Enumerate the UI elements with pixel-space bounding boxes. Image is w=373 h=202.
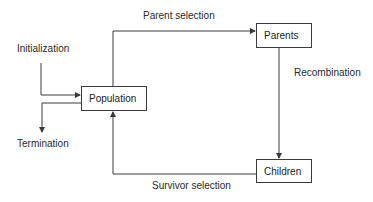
initialization-label: Initialization: [17, 43, 69, 55]
evolutionary-cycle-diagram: Population Parents Children Initializati…: [0, 0, 373, 202]
children-label: Children: [264, 166, 301, 177]
parents-node: Parents: [256, 23, 312, 48]
parent-selection-arrow: [113, 31, 255, 86]
population-node: Population: [81, 86, 147, 111]
population-label: Population: [89, 93, 136, 104]
termination-label: Termination: [17, 138, 69, 150]
parents-label: Parents: [264, 30, 298, 41]
children-node: Children: [256, 159, 312, 183]
parent-selection-label: Parent selection: [143, 10, 215, 22]
survivor-selection-label: Survivor selection: [152, 180, 231, 192]
survivor-selection-arrow: [113, 112, 256, 174]
initialization-arrow: [41, 63, 80, 95]
recombination-label: Recombination: [294, 67, 361, 79]
connector-lines: [0, 0, 373, 202]
termination-arrow: [42, 103, 81, 132]
